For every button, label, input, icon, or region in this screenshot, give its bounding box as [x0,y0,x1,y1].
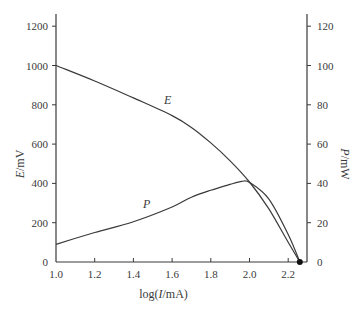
y-right-tick-label: 40 [317,177,329,189]
y-left-tick-label: 1000 [26,60,49,72]
x-tick-label: 2.2 [281,268,295,280]
y-left-tick-label: 600 [32,138,49,150]
chart: 1.01.21.41.61.82.02.20200400600800100012… [0,0,359,312]
x-tick-label: 1.4 [127,268,141,280]
y-left-tick-label: 200 [32,217,49,229]
x-tick-label: 2.0 [243,268,257,280]
x-tick-label: 1.6 [165,268,179,280]
x-tick-label: 1.8 [204,268,218,280]
y-right-tick-label: 80 [317,99,329,111]
x-axis-title: log(I/mA) [139,287,188,301]
curve-label-E: E [163,93,172,107]
endpoint-marker [297,259,303,265]
series-P-line [56,181,300,262]
y-left-tick-label: 400 [32,177,49,189]
y-left-tick-label: 0 [43,256,49,268]
y-right-tick-label: 20 [317,217,329,229]
y-right-tick-label: 60 [317,138,329,150]
x-tick-label: 1.0 [49,268,63,280]
y-right-axis-title: P/mW [338,147,352,180]
axes [52,14,311,262]
y-left-axis-title: E/mV [13,149,27,179]
y-right-tick-label: 0 [317,256,323,268]
labels: 1.01.21.41.61.82.02.20200400600800100012… [13,20,352,301]
x-tick-label: 1.2 [88,268,102,280]
curve-label-P: P [142,197,151,211]
curves [56,66,303,266]
y-left-tick-label: 1200 [26,20,49,32]
y-right-tick-label: 100 [317,60,334,72]
y-right-tick-label: 120 [317,20,334,32]
y-left-tick-label: 800 [32,99,49,111]
